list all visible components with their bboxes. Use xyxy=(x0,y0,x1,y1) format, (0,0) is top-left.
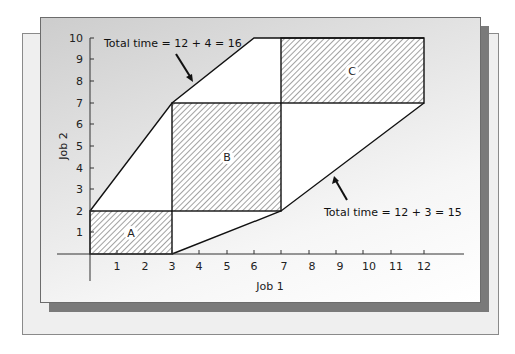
y-tick-label: 8 xyxy=(76,75,83,88)
y-tick-label: 6 xyxy=(76,118,83,131)
y-tick-label: 10 xyxy=(69,32,83,45)
x-tick-label: 6 xyxy=(251,260,258,273)
y-ticks xyxy=(90,38,94,232)
x-tick-label: 3 xyxy=(169,260,176,273)
x-tick-label: 1 xyxy=(114,260,121,273)
y-tick-label: 5 xyxy=(76,140,83,153)
x-tick-label: 8 xyxy=(309,260,316,273)
x-tick-label: 5 xyxy=(224,260,231,273)
x-tick-label: 2 xyxy=(142,260,149,273)
arrow-lower xyxy=(336,181,347,200)
x-tick-label: 9 xyxy=(337,260,344,273)
annotation-upper: Total time = 12 + 4 = 16 xyxy=(103,37,242,50)
x-tick-label: 10 xyxy=(362,260,376,273)
y-tick-label: 9 xyxy=(76,53,83,66)
y-axis-title: Job 2 xyxy=(57,132,70,160)
y-tick-label: 3 xyxy=(76,183,83,196)
y-tick-label: 1 xyxy=(76,226,83,239)
x-tick-label: 4 xyxy=(196,260,203,273)
annotation-lower: Total time = 12 + 3 = 15 xyxy=(323,206,462,219)
x-axis-title: Job 1 xyxy=(255,280,283,293)
job-schedule-diagram: 1 2 3 4 5 6 7 8 9 10 11 12 1 2 3 4 5 6 7… xyxy=(0,0,515,354)
y-tick-label: 2 xyxy=(76,205,83,218)
y-tick-label: 7 xyxy=(76,97,83,110)
arrow-upper xyxy=(176,54,191,78)
region-b-label: B xyxy=(223,151,231,164)
x-tick-label: 11 xyxy=(389,260,403,273)
y-tick-label: 4 xyxy=(76,162,83,175)
x-tick-label: 7 xyxy=(281,260,288,273)
region-c-label: C xyxy=(348,65,356,78)
x-tick-label: 12 xyxy=(417,260,431,273)
region-a-label: A xyxy=(127,227,135,240)
